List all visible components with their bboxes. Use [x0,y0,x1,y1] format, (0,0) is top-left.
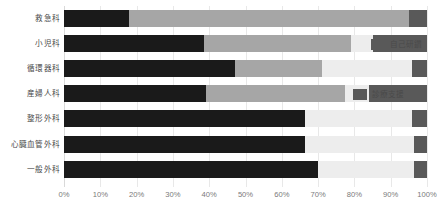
category-label-2: 小児科 [0,35,60,52]
bar-segment[interactable] [64,60,235,77]
bar-segment[interactable] [409,10,427,27]
bar-segment[interactable] [345,85,369,102]
category-label-6: 心臓血管外科 [0,136,60,153]
x-tick-70: 70% [310,189,325,201]
bar-segment[interactable] [64,85,206,102]
x-tick-60: 60% [274,189,289,201]
category-label-5: 整形外科 [0,110,60,127]
bar-track [64,35,427,52]
bar-segment[interactable] [412,110,427,127]
bar-segment[interactable] [235,60,322,77]
bar-track [64,10,427,27]
gridline-100 [427,6,428,187]
bar-segment[interactable] [322,60,413,77]
bar-row[interactable] [64,161,427,178]
bar-segment[interactable] [129,10,409,27]
bar-segment[interactable] [414,161,427,178]
plot-area [64,6,427,187]
x-tick-40: 40% [202,189,217,201]
bar-row[interactable] [64,35,427,52]
bar-row[interactable] [64,10,427,27]
category-label-3: 循環器科 [0,60,60,77]
category-label-4: 産婦人科 [0,85,60,102]
bar-segment[interactable] [412,60,427,77]
bar-segment[interactable] [206,85,346,102]
bar-segment[interactable] [351,35,373,52]
bar-segment[interactable] [414,136,427,153]
bar-segment[interactable] [305,136,414,153]
bar-row[interactable] [64,136,427,153]
bar-segment[interactable] [64,136,305,153]
bar-segment[interactable] [318,161,414,178]
bar-track [64,85,427,102]
x-tick-50: 50% [238,189,253,201]
category-label-7: 一般外科 [0,161,60,178]
y-axis-category-labels: 救急科小児科循環器科産婦人科整形外科心臓血管外科一般外科 [0,6,60,187]
x-tick-100: 100% [417,189,436,201]
bar-track [64,161,427,178]
bar-segment[interactable] [305,110,412,127]
x-tick-80: 80% [347,189,362,201]
bar-track [64,136,427,153]
x-axis-tick-labels: 0%10%20%30%40%50%60%70%80%90%100% [64,189,427,207]
bar-segment[interactable] [64,161,318,178]
bar-row[interactable] [64,110,427,127]
x-tick-10: 10% [93,189,108,201]
bar-track [64,60,427,77]
bar-track [64,110,427,127]
bar-row[interactable] [64,85,427,102]
category-label-1: 救急科 [0,10,60,27]
x-tick-90: 90% [383,189,398,201]
bar-segment[interactable] [369,85,427,102]
bar-segment[interactable] [64,110,305,127]
bar-row[interactable] [64,60,427,77]
bar-segment[interactable] [64,35,204,52]
x-tick-30: 30% [165,189,180,201]
bar-segment[interactable] [64,10,129,27]
x-tick-0: 0% [59,189,70,201]
bar-segment[interactable] [373,35,427,52]
x-tick-20: 20% [129,189,144,201]
bar-segment[interactable] [204,35,351,52]
